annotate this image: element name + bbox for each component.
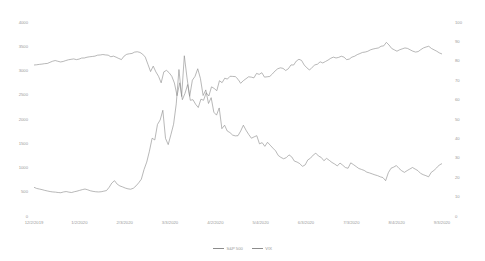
plot-area (34, 22, 442, 216)
series-line-sp500 (34, 42, 442, 107)
legend-item[interactable]: VIX (252, 246, 272, 251)
y-right-tick-label: 40 (455, 136, 477, 141)
y-right-tick-label: 70 (455, 78, 477, 83)
legend-label: S&P 500 (226, 246, 242, 251)
legend-item[interactable]: S&P 500 (213, 246, 243, 251)
y-right-tick-label: 60 (455, 97, 477, 102)
y-left-tick-label: 0 (2, 214, 28, 219)
y-right-tick-label: 20 (455, 175, 477, 180)
legend-label: VIX (265, 246, 272, 251)
y-left-tick-label: 3500 (2, 44, 28, 49)
y-left-tick-label: 2500 (2, 92, 28, 97)
x-tick-label: 3/3/2020 (150, 220, 190, 225)
chart-container: 40003500300025002000150010005000 1009080… (0, 0, 485, 261)
y-left-tick-label: 1500 (2, 141, 28, 146)
x-tick-label: 6/3/2020 (286, 220, 326, 225)
x-tick-label: 8/4/2020 (377, 220, 417, 225)
x-tick-label: 12/2/2019 (14, 220, 54, 225)
x-tick-label: 2/3/2020 (105, 220, 145, 225)
x-tick-label: 4/2/2020 (195, 220, 235, 225)
y-right-tick-label: 50 (455, 117, 477, 122)
x-tick-label: 7/3/2020 (331, 220, 371, 225)
y-right-tick-label: 100 (455, 20, 477, 25)
y-left-tick-label: 3000 (2, 68, 28, 73)
series-line-vix (34, 56, 442, 193)
legend-line-icon (252, 248, 263, 249)
y-left-tick-label: 2000 (2, 117, 28, 122)
chart-svg (34, 22, 442, 216)
y-left-tick-label: 500 (2, 189, 28, 194)
y-left-tick-label: 4000 (2, 20, 28, 25)
legend-line-icon (213, 248, 224, 249)
y-right-tick-label: 80 (455, 58, 477, 63)
y-right-tick-label: 90 (455, 39, 477, 44)
x-tick-label: 5/4/2020 (241, 220, 281, 225)
x-tick-label: 9/3/2020 (422, 220, 462, 225)
x-tick-label: 1/2/2020 (59, 220, 99, 225)
y-right-tick-label: 0 (455, 214, 477, 219)
y-left-tick-label: 1000 (2, 165, 28, 170)
y-right-tick-label: 10 (455, 194, 477, 199)
chart-legend: S&P 500VIX (0, 243, 485, 253)
y-right-tick-label: 30 (455, 155, 477, 160)
